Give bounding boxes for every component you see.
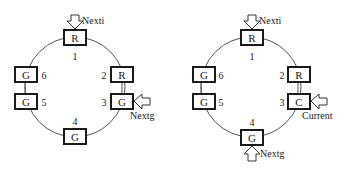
slot-6: G 6 [15,67,47,82]
right-diagram: R 1 R 2 C 3 G 4 G 5 G 6 [193,15,333,161]
slot-index: 5 [42,97,47,108]
slot-label: R [118,69,126,81]
slot-index: 5 [219,97,224,108]
slot-label: R [248,32,256,44]
slot-5: G 5 [193,94,224,109]
slot-index: 4 [73,116,78,127]
slot-1: R 1 [241,30,263,62]
nextg-pointer: Nextg [244,146,284,161]
slot-2: R 2 [102,67,134,82]
nexti-pointer: Nexti [67,15,104,29]
arrow-down-icon [67,15,83,29]
slot-index: 1 [73,51,78,62]
slot-index: 2 [280,70,285,81]
slot-index: 2 [102,70,107,81]
slot-4: G 4 [241,117,263,145]
pointer-label: Nexti [259,15,281,26]
slot-index: 3 [280,97,285,108]
slot-3: C 3 [280,94,311,109]
arrow-left-icon [311,94,327,109]
pointer-label: Nextg [260,148,284,159]
slot-label: G [71,131,79,143]
arrow-down-icon [244,15,260,29]
slot-label: G [200,69,208,81]
slot-index: 3 [102,97,107,108]
pointer-label: Nextg [130,110,154,121]
slot-label: G [248,132,256,144]
slot-1: R 1 [64,30,86,62]
pointer-label: Current [302,110,333,121]
slot-index: 6 [219,70,224,81]
slot-label: G [200,96,208,108]
arrow-up-icon [244,146,260,161]
slot-label: G [22,96,30,108]
slot-index: 6 [42,70,47,81]
nexti-pointer: Nexti [244,15,281,29]
slot-5: G 5 [15,94,47,109]
slot-2: R 2 [280,67,311,82]
slot-index: 1 [250,51,255,62]
arrow-left-icon [134,94,150,109]
slot-4: G 4 [64,116,86,144]
pointer-label: Nexti [82,15,104,26]
slot-label: R [295,69,303,81]
slot-label: G [118,96,126,108]
slot-6: G 6 [193,67,224,82]
slot-index: 4 [250,117,255,128]
slot-3: G 3 [102,94,134,109]
ring-buffer-diagram: R 1 R 2 G 3 G 4 G 5 G 6 [0,0,347,171]
slot-label: G [22,69,30,81]
slot-label: R [71,32,79,44]
left-diagram: R 1 R 2 G 3 G 4 G 5 G 6 [15,15,154,144]
slot-label: C [295,96,302,108]
